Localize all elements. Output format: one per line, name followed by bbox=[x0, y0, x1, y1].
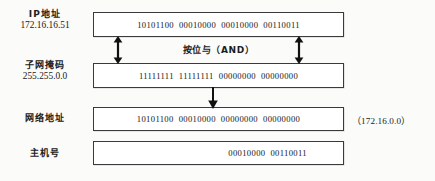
row-label-ip-address-text: IP地址 bbox=[2, 9, 88, 20]
bitwise-and-caption: 按位与（AND） bbox=[93, 43, 344, 56]
row-label-ip-address: IP地址 172.16.16.51 bbox=[2, 9, 88, 31]
result-down-arrow-icon bbox=[206, 87, 220, 109]
bit-string-subnet-mask: 11111111 11111111 00000000 00000000 bbox=[94, 71, 343, 81]
row-label-subnet-mask-value: 255.255.0.0 bbox=[2, 71, 88, 82]
and-arrow-left-icon bbox=[111, 36, 125, 64]
row-label-subnet-mask: 子网掩码 255.255.0.0 bbox=[2, 60, 88, 82]
bit-string-network-address: 10101100 00010000 00000000 00000000 bbox=[94, 114, 343, 124]
row-label-host-number-text: 主机号 bbox=[2, 148, 88, 159]
subnet-and-diagram: IP地址 172.16.16.51 子网掩码 255.255.0.0 网络地址 … bbox=[0, 0, 435, 181]
row-label-subnet-mask-text: 子网掩码 bbox=[2, 60, 88, 71]
network-address-annotation: （172.16.0.0） bbox=[352, 113, 410, 127]
bit-box-host-number: 00010000 00110011 bbox=[93, 141, 344, 165]
row-label-host-number: 主机号 bbox=[2, 148, 88, 159]
bit-box-ip-address: 10101100 00010000 00010000 00110011 bbox=[93, 12, 344, 37]
row-label-network-address-text: 网络地址 bbox=[2, 113, 88, 124]
and-arrow-right-icon bbox=[292, 36, 306, 64]
bit-box-network-address: 10101100 00010000 00000000 00000000 bbox=[93, 107, 344, 131]
bit-string-host-number: 00010000 00110011 bbox=[228, 148, 343, 158]
row-label-ip-address-value: 172.16.16.51 bbox=[2, 20, 88, 31]
bit-box-subnet-mask: 11111111 11111111 00000000 00000000 bbox=[93, 63, 344, 88]
row-label-network-address: 网络地址 bbox=[2, 113, 88, 124]
bit-string-ip-address: 10101100 00010000 00010000 00110011 bbox=[94, 20, 343, 30]
